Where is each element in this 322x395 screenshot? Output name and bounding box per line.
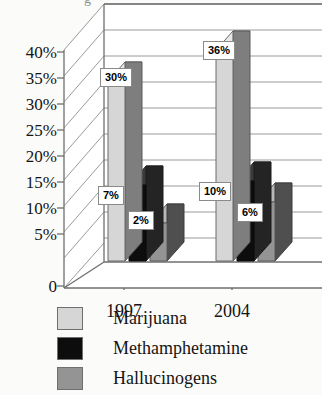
data-label-2004-methamphetamine: 10% [199, 182, 231, 201]
data-label-2004-marijuana: 36% [203, 41, 235, 60]
bars-layer [0, 0, 322, 290]
bar-1997-marijuana [108, 62, 142, 261]
legend-label-marijuana: Marijuana [113, 309, 187, 327]
legend: Marijuana Methamphetamine Hallucinogens [57, 303, 322, 393]
data-label-1997-hallucinogens: 2% [128, 211, 154, 230]
legend-item-hallucinogens: Hallucinogens [57, 363, 322, 393]
legend-label-methamphetamine: Methamphetamine [113, 339, 248, 357]
legend-item-methamphetamine: Methamphetamine [57, 333, 322, 363]
legend-swatch-hallucinogens [57, 367, 83, 390]
data-label-1997-methamphetamine: 7% [98, 186, 124, 205]
legend-swatch-marijuana [57, 307, 83, 330]
data-label-2004-hallucinogens: 6% [237, 203, 263, 222]
bars-svg [0, 0, 322, 290]
chart-image: g [0, 0, 322, 395]
legend-label-hallucinogens: Hallucinogens [113, 369, 217, 387]
legend-swatch-methamphetamine [57, 337, 83, 360]
data-label-1997-marijuana: 30% [100, 68, 132, 87]
bar-2004-marijuana [216, 31, 250, 261]
legend-item-marijuana: Marijuana [57, 303, 322, 333]
